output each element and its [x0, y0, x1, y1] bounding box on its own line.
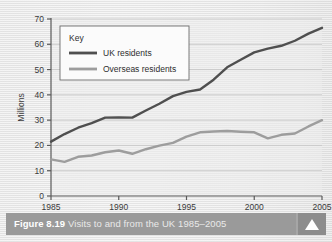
y-tick-label: 0 [39, 191, 44, 201]
figure-caption-bar: Figure 8.19 Visits to and from the UK 19… [6, 213, 326, 235]
x-tick-label: 2000 [245, 202, 264, 210]
triangle-up-icon [305, 219, 319, 230]
y-tick-label: 10 [35, 166, 45, 176]
legend-entry-label: Overseas residents [103, 64, 176, 74]
y-axis-title: Millions [16, 93, 26, 121]
y-axis-title-text: Millions [16, 93, 26, 121]
x-tick-label: 1990 [109, 202, 128, 210]
figure-caption-text: Figure 8.19 Visits to and from the UK 19… [6, 213, 296, 235]
y-tick-label: 40 [35, 90, 45, 100]
expand-figure-button[interactable] [296, 213, 326, 235]
y-tick-label: 50 [35, 65, 45, 75]
y-tick-label: 70 [35, 14, 45, 24]
y-tick-label: 20 [35, 140, 45, 150]
line-chart-svg: 010203040506070 19851990199520002005 Mil… [0, 0, 332, 210]
x-axis-ticks: 19851990199520002005 [42, 196, 332, 210]
y-tick-label: 30 [35, 115, 45, 125]
y-tick-label: 60 [35, 39, 45, 49]
y-axis-ticks: 010203040506070 [35, 14, 51, 201]
x-tick-label: 1985 [42, 202, 61, 210]
legend-entry-label: UK residents [103, 48, 152, 58]
legend-title: Key [69, 33, 84, 43]
figure-caption-title: Visits to and from the UK 1985–2005 [68, 218, 227, 229]
x-tick-label: 2005 [313, 202, 332, 210]
chart-plot-region: 010203040506070 19851990199520002005 Mil… [0, 0, 332, 210]
x-tick-label: 1995 [177, 202, 196, 210]
figure-container: 010203040506070 19851990199520002005 Mil… [0, 0, 332, 242]
chart-legend: KeyUK residentsOverseas residents [60, 26, 189, 80]
figure-number-label: Figure 8.19 [14, 218, 65, 229]
